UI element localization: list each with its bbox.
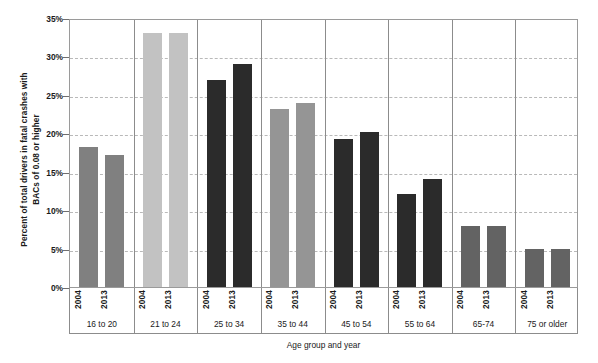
y-tick-label: 0% bbox=[23, 283, 63, 293]
x-axis-category-label: 75 or older bbox=[515, 319, 579, 329]
x-tick-year-label: 2013 bbox=[100, 290, 130, 316]
x-tick-year-label: 2013 bbox=[164, 290, 194, 316]
y-tick-label: 5% bbox=[23, 245, 63, 255]
plot-area bbox=[69, 19, 578, 288]
x-axis-category-label: 21 to 24 bbox=[134, 319, 198, 329]
x-axis-category-label: 65-74 bbox=[452, 319, 516, 329]
bar[interactable] bbox=[461, 226, 480, 287]
bar[interactable] bbox=[143, 33, 162, 287]
bar-chart: Percent of total drivers in fatal crashe… bbox=[0, 0, 598, 363]
bar[interactable] bbox=[551, 249, 570, 287]
group-separator bbox=[452, 20, 453, 287]
x-tick-year-label: 2013 bbox=[546, 290, 576, 316]
y-tick-label: 35% bbox=[23, 14, 63, 24]
bar[interactable] bbox=[169, 33, 188, 287]
bar[interactable] bbox=[525, 249, 544, 287]
x-axis-category-label: 35 to 44 bbox=[261, 319, 325, 329]
x-axis-category-label: 45 to 54 bbox=[325, 319, 389, 329]
bar[interactable] bbox=[296, 103, 315, 287]
y-tick-label: 10% bbox=[23, 206, 63, 216]
group-separator bbox=[261, 20, 262, 287]
x-axis-title: Age group and year bbox=[69, 340, 578, 350]
group-separator bbox=[325, 20, 326, 287]
x-tick-year-label: 2013 bbox=[418, 290, 448, 316]
y-tick-label: 20% bbox=[23, 129, 63, 139]
group-separator bbox=[515, 20, 516, 287]
bar[interactable] bbox=[397, 194, 416, 287]
bar[interactable] bbox=[423, 179, 442, 287]
group-separator bbox=[197, 20, 198, 287]
bar[interactable] bbox=[270, 109, 289, 287]
x-axis-band: 2004201316 to 202004201321 to 2420042013… bbox=[69, 288, 578, 334]
bar[interactable] bbox=[233, 64, 252, 287]
group-separator bbox=[134, 20, 135, 287]
x-axis-category-label: 55 to 64 bbox=[388, 319, 452, 329]
bar[interactable] bbox=[334, 139, 353, 287]
bar[interactable] bbox=[105, 155, 124, 287]
bar[interactable] bbox=[207, 80, 226, 288]
x-tick-year-label: 2013 bbox=[355, 290, 385, 316]
group-separator bbox=[388, 20, 389, 287]
bar[interactable] bbox=[79, 147, 98, 287]
bar[interactable] bbox=[360, 132, 379, 287]
y-tick-label: 25% bbox=[23, 91, 63, 101]
y-tick-label: 30% bbox=[23, 52, 63, 62]
x-tick-year-label: 2013 bbox=[228, 290, 258, 316]
x-axis-category-label: 25 to 34 bbox=[197, 319, 261, 329]
bar[interactable] bbox=[487, 226, 506, 287]
chart-title bbox=[69, 0, 578, 6]
x-tick-year-label: 2013 bbox=[291, 290, 321, 316]
x-axis-category-label: 16 to 20 bbox=[70, 319, 134, 329]
x-tick-year-label: 2013 bbox=[482, 290, 512, 316]
y-tick-label: 15% bbox=[23, 168, 63, 178]
